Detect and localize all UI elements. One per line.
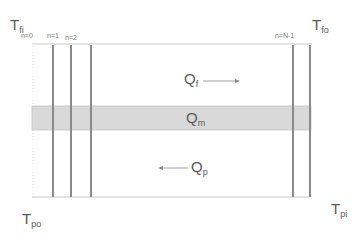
node-label-n1: n=1 (47, 32, 59, 39)
label-t-pi: Tpi (331, 200, 347, 219)
plate-flow-arrowhead (158, 166, 163, 170)
node-label-n0: n=0 (21, 32, 33, 39)
fluid-flow-arrowhead (235, 79, 240, 83)
node-label-n2: n=2 (65, 34, 77, 41)
label-q-f: Qf (184, 70, 198, 89)
label-t-fo: Tfo (312, 16, 329, 35)
label-q-m: Qm (186, 109, 205, 128)
node-label-nN-1: n=N-1 (275, 32, 294, 39)
medium-band (32, 106, 311, 130)
label-t-po: Tpo (22, 210, 41, 229)
label-q-p: Qp (191, 158, 208, 177)
